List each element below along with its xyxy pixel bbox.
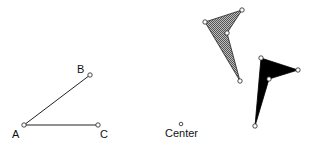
point-b[interactable] (88, 73, 92, 77)
label-center: Center (165, 127, 198, 139)
angle-bac: A B C (12, 63, 108, 140)
point-c[interactable] (96, 123, 100, 127)
vertex-handle[interactable] (253, 124, 257, 128)
vertex-handle[interactable] (259, 56, 263, 60)
ray-ab (24, 75, 90, 125)
vertex-handle[interactable] (267, 77, 271, 81)
vertex-handle[interactable] (238, 79, 242, 83)
original-shape (203, 8, 244, 83)
vertex-handle[interactable] (240, 8, 244, 12)
rotation-center: Center (165, 122, 198, 139)
label-c: C (100, 128, 108, 140)
vertex-handle[interactable] (296, 68, 300, 72)
point-a[interactable] (22, 123, 26, 127)
rotated-shape (253, 56, 300, 128)
rotation-diagram: A B C Center (0, 0, 309, 147)
vertex-handle[interactable] (225, 31, 229, 35)
label-b: B (77, 63, 84, 75)
label-a: A (12, 128, 20, 140)
center-point[interactable] (179, 122, 183, 126)
vertex-handle[interactable] (203, 20, 207, 24)
